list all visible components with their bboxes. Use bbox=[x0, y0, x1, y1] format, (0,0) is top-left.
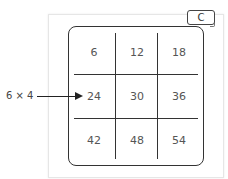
grid-cell: 42 bbox=[71, 118, 117, 162]
grid-cell: 54 bbox=[156, 118, 202, 162]
badge-label: C bbox=[198, 12, 205, 23]
grid-cell: 6 bbox=[71, 30, 117, 74]
badge-c: C bbox=[187, 10, 215, 25]
grid-cell: 18 bbox=[156, 30, 202, 74]
arrow-right-icon bbox=[37, 96, 75, 97]
grid-cell: 36 bbox=[156, 74, 202, 118]
grid-cell: 30 bbox=[114, 74, 160, 118]
arrowhead-icon bbox=[75, 92, 83, 100]
multiples-grid: 6 12 18 24 30 36 42 48 54 bbox=[68, 26, 204, 166]
annotation-label: 6 × 4 bbox=[6, 90, 33, 101]
grid-cell: 12 bbox=[114, 30, 160, 74]
grid-cell: 48 bbox=[114, 118, 160, 162]
